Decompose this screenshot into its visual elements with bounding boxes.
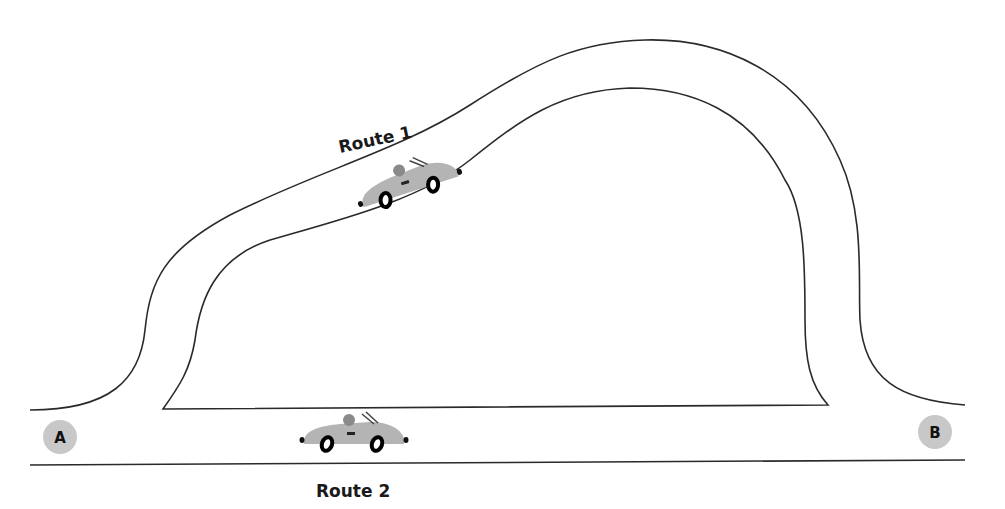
route-1-label: Route 1 [337,122,414,157]
route-1-inner-edge [163,88,828,409]
route-2-bottom-edge [30,460,965,465]
point-a-label: A [54,429,66,447]
car-icon-route-2 [300,412,409,452]
route-diagram: Route 1 Route 2 A B [0,0,1005,509]
route-2-label: Route 2 [316,481,390,501]
route-1-outer-edge [30,40,965,410]
point-b-marker: B [918,415,952,449]
point-b-label: B [929,424,940,442]
point-a-marker: A [43,420,77,454]
